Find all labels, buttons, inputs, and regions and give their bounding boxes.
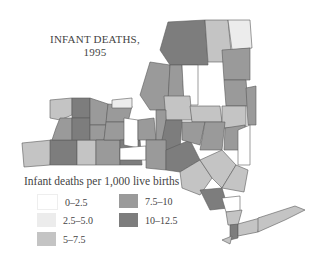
title-year: 1995: [40, 46, 150, 59]
county: [226, 210, 242, 225]
county: [160, 20, 208, 65]
legend-swatch: [119, 194, 138, 208]
county: [222, 48, 250, 80]
legend-label: 5–7.5: [63, 234, 86, 245]
legend-label: 10–12.5: [145, 215, 178, 226]
county: [222, 236, 232, 244]
county: [168, 65, 184, 100]
county: [258, 206, 305, 232]
legend-label: 0–2.5: [65, 197, 88, 208]
legend-item-5-7-5: 5–7.5: [37, 232, 86, 246]
county: [224, 80, 248, 106]
title-line1: INFANT DEATHS,: [40, 33, 150, 46]
legend-item-7-5-10: 7.5–10: [119, 194, 173, 208]
legend-item-10-12-5: 10–12.5: [119, 213, 178, 227]
county: [90, 125, 106, 140]
county: [246, 86, 256, 125]
legend-swatch: [119, 213, 138, 227]
county: [228, 20, 252, 50]
county: [146, 140, 166, 170]
legend-item-2-5-5-0: 2.5–5.0: [37, 213, 93, 227]
county: [112, 98, 132, 108]
legend-swatch: [37, 213, 56, 227]
county: [138, 118, 156, 140]
county: [120, 146, 146, 160]
legend-title: Infant deaths per 1,000 live births: [24, 175, 179, 187]
county: [50, 98, 72, 120]
county: [90, 98, 108, 125]
county: [22, 140, 52, 167]
legend-label: 7.5–10: [145, 196, 173, 207]
county: [124, 118, 138, 148]
county: [77, 140, 96, 165]
county: [50, 140, 77, 165]
county: [238, 125, 250, 165]
county: [190, 106, 222, 122]
county: [72, 118, 90, 140]
county: [52, 118, 72, 140]
county: [222, 196, 240, 212]
county: [238, 218, 260, 236]
county: [222, 106, 246, 128]
map-title: INFANT DEATHS, 1995: [40, 33, 150, 59]
legend-label: 2.5–5.0: [63, 215, 93, 226]
county: [72, 98, 90, 118]
legend-swatch: [37, 194, 58, 210]
legend-swatch: [37, 232, 56, 246]
county: [96, 140, 120, 165]
county: [164, 96, 192, 120]
legend-item-0-2-5: 0–2.5: [37, 194, 88, 210]
